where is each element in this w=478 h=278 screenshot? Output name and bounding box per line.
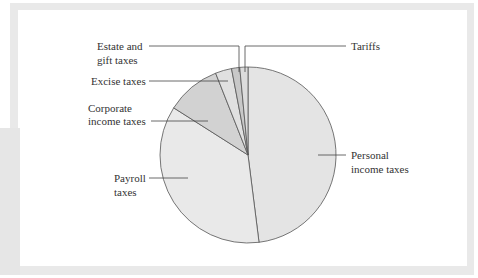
label-corporate-line1: Corporate: [88, 102, 132, 114]
label-estate-line2: gift taxes: [97, 54, 138, 66]
label-tariffs: Tariffs: [351, 40, 380, 52]
label-excise: Excise taxes: [91, 75, 146, 87]
label-personal-line1: Personal: [351, 149, 389, 161]
pie-slices: [160, 67, 336, 243]
pie-chart: Estate and gift taxes Tariffs Excise tax…: [0, 0, 478, 278]
label-personal-line2: income taxes: [351, 163, 409, 175]
label-payroll-line1: Payroll: [114, 172, 146, 184]
label-payroll-line2: taxes: [114, 186, 137, 198]
label-estate-line1: Estate and: [97, 40, 143, 52]
label-corporate-line2: income taxes: [88, 115, 146, 127]
